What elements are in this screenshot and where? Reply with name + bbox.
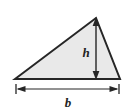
base-label: b xyxy=(65,95,72,110)
triangle-area-figure: h b xyxy=(0,0,124,112)
height-label: h xyxy=(82,45,89,60)
figure-canvas: h b xyxy=(0,0,124,112)
